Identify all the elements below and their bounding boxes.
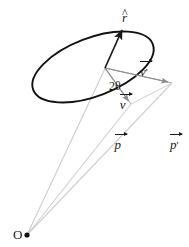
- label-origin-o: O: [13, 228, 22, 241]
- v-prime-letter: v': [140, 65, 148, 78]
- p-prime-arrowhead-icon: [179, 132, 183, 136]
- vector-reflection-diagram: ^ r v' 2θ v p p' O: [0, 0, 189, 247]
- label-v: v: [120, 93, 126, 111]
- v-letter: v: [120, 98, 126, 111]
- edge-v-tip-to-vprime-tip: [131, 83, 172, 104]
- origin-dot: [24, 232, 29, 237]
- origin-rays: [27, 68, 172, 236]
- label-v-prime: v': [140, 60, 148, 78]
- vector-r-hat: [105, 30, 122, 68]
- diagram-canvas: [0, 0, 189, 247]
- p-arrowhead-icon: [124, 132, 128, 136]
- label-p: p: [115, 133, 122, 151]
- label-p-prime: p': [170, 133, 178, 151]
- r-hat-caret: ^: [122, 7, 128, 19]
- v-prime-arrowhead-icon: [149, 59, 153, 63]
- p-prime-letter: p': [170, 138, 178, 151]
- v-arrowhead-icon: [129, 92, 133, 96]
- label-angle-2theta: 2θ: [109, 80, 121, 92]
- label-r-hat: ^ r: [122, 7, 127, 24]
- ray-p-prime: [27, 83, 172, 235]
- p-letter: p: [115, 138, 122, 151]
